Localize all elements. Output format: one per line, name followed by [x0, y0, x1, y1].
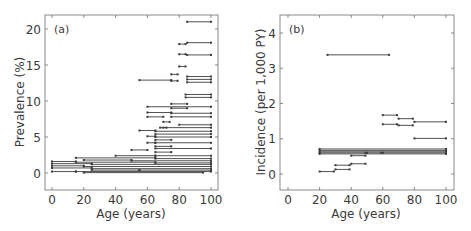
x-tick-label: 80	[407, 193, 422, 207]
y-tick-label: 10	[26, 95, 41, 109]
x-tick-label: 100	[200, 193, 223, 207]
y-tick-label: 0	[268, 168, 276, 182]
x-tick-label: 20	[76, 193, 91, 207]
x-tick-label: 80	[172, 193, 187, 207]
panel-b-x-axis-label: Age (years)	[331, 207, 400, 221]
x-tick-label: 40	[108, 193, 123, 207]
x-tick-label: 60	[375, 193, 390, 207]
x-tick-label: 0	[284, 193, 292, 207]
y-tick-label: 20	[26, 23, 41, 37]
panel-a-y-axis-label: Prevalence (%)	[13, 57, 27, 147]
panel-a-label: (a)	[54, 23, 69, 36]
y-tick-label: 2	[268, 97, 276, 111]
y-tick-label: 0	[33, 167, 41, 181]
panel-b-plot-area	[280, 15, 454, 190]
panel-b-label: (b)	[289, 23, 305, 36]
y-tick-label: 4	[268, 27, 276, 41]
panel-a-prevalence: 05101520 020406080100 (a) Age (years) Pr…	[13, 15, 222, 221]
x-tick-label: 0	[48, 193, 56, 207]
figure: 05101520 020406080100 (a) Age (years) Pr…	[0, 0, 471, 231]
x-tick-label: 60	[140, 193, 155, 207]
y-tick-label: 3	[268, 62, 276, 76]
y-tick-label: 1	[268, 132, 276, 146]
y-tick-label: 15	[26, 59, 41, 73]
x-tick-label: 100	[435, 193, 458, 207]
x-tick-label: 20	[312, 193, 327, 207]
x-tick-label: 40	[344, 193, 359, 207]
panel-a-x-axis-label: Age (years)	[96, 207, 165, 221]
panel-b-incidence: 01234 020406080100 (b) Age (years) Incid…	[254, 15, 457, 221]
y-tick-label: 5	[33, 131, 41, 145]
panel-b-y-axis-label: Incidence (per 1,000 PY)	[254, 28, 268, 175]
